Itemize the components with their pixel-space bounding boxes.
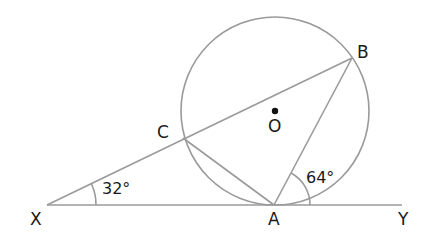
geometry-diagram: X A Y B C O 32° 64° [0, 0, 431, 238]
angle-label-a: 64° [306, 168, 334, 187]
center-dot [272, 108, 278, 114]
label-a: A [268, 209, 280, 229]
chord-ca [183, 138, 274, 205]
label-o: O [268, 116, 281, 136]
angle-arc-x [91, 183, 96, 205]
label-y: Y [397, 209, 409, 229]
label-x: X [30, 209, 42, 229]
label-b: B [357, 42, 369, 62]
angle-label-x: 32° [102, 179, 130, 198]
label-c: C [157, 122, 169, 142]
